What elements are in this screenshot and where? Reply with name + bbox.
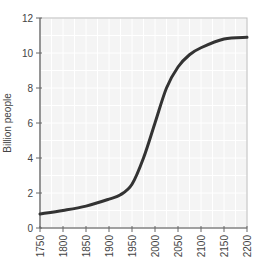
x-tick-label: 2150 xyxy=(219,235,230,258)
y-tick-label: 12 xyxy=(22,13,34,24)
x-tick-label: 2200 xyxy=(242,235,253,258)
y-axis-ticks: 024681012 xyxy=(22,13,42,234)
y-tick-label: 4 xyxy=(27,153,33,164)
x-tick-label: 2050 xyxy=(173,235,184,258)
x-tick-label: 1950 xyxy=(127,235,138,258)
y-axis-title: Billion people xyxy=(2,93,13,153)
x-tick-label: 2000 xyxy=(150,235,161,258)
x-tick-label: 1900 xyxy=(104,235,115,258)
y-tick-label: 6 xyxy=(27,118,33,129)
x-tick-label: 1800 xyxy=(58,235,69,258)
y-tick-label: 8 xyxy=(27,83,33,94)
x-tick-label: 2100 xyxy=(196,235,207,258)
population-chart: 024681012 175018001850190019502000205021… xyxy=(0,0,263,268)
y-tick-label: 0 xyxy=(27,223,33,234)
x-axis-ticks: 1750180018501900195020002050210021502200 xyxy=(35,226,253,257)
y-tick-label: 2 xyxy=(27,188,33,199)
y-tick-label: 10 xyxy=(22,48,34,59)
x-tick-label: 1750 xyxy=(35,235,46,258)
x-tick-label: 1850 xyxy=(81,235,92,258)
